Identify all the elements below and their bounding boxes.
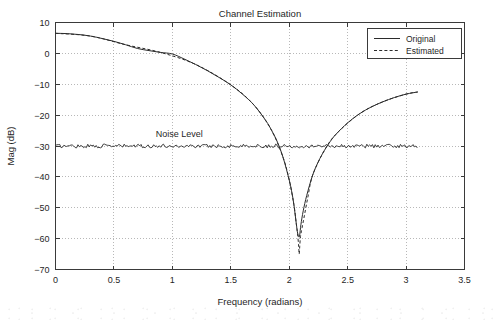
annotation-noise-level: Noise Level xyxy=(156,129,203,139)
y-axis-tick-labels: 100−10−20−30−40−50−60−70 xyxy=(34,18,49,275)
x-tick-label: 2 xyxy=(287,275,292,285)
x-tick-label: 3 xyxy=(404,275,409,285)
y-tick-label: 0 xyxy=(44,49,49,59)
y-axis-label: Mag (dB) xyxy=(5,126,16,165)
y-tick-label: −20 xyxy=(34,111,49,121)
series-estimated xyxy=(56,33,418,254)
x-tick-label: 0.5 xyxy=(108,275,121,285)
legend-label-estimated: Estimated xyxy=(406,46,444,56)
series-original xyxy=(56,33,418,237)
x-tick-label: 2.5 xyxy=(341,275,354,285)
x-axis-tick-labels: 00.511.522.533.5 xyxy=(53,275,471,285)
chart-title: Channel Estimation xyxy=(219,8,301,19)
y-tick-label: −40 xyxy=(34,172,49,182)
x-axis-label: Frequency (radians) xyxy=(217,296,302,307)
channel-estimation-plot: Channel Estimation 00.511.522.533.5 100−… xyxy=(0,0,497,320)
data-series-layer xyxy=(56,33,418,254)
x-tick-label: 0 xyxy=(53,275,58,285)
y-tick-label: −10 xyxy=(34,80,49,90)
y-tick-label: 10 xyxy=(39,18,49,28)
y-tick-label: −60 xyxy=(34,234,49,244)
chart-annotations: Noise Level xyxy=(156,129,203,139)
y-tick-label: −30 xyxy=(34,142,49,152)
chart-legend[interactable]: Original Estimated xyxy=(368,29,462,59)
y-tick-label: −50 xyxy=(34,203,49,213)
y-tick-label: −70 xyxy=(34,265,49,275)
chart-figure: Channel Estimation 00.511.522.533.5 100−… xyxy=(0,0,497,320)
legend-label-original: Original xyxy=(406,34,435,44)
x-tick-label: 3.5 xyxy=(458,275,471,285)
x-tick-label: 1.5 xyxy=(225,275,238,285)
x-tick-label: 1 xyxy=(170,275,175,285)
